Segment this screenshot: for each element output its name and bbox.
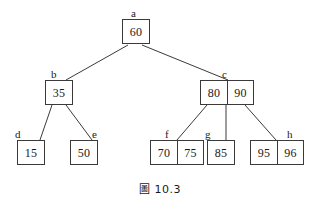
tree-node-f-key-0: 70 bbox=[151, 141, 177, 164]
tree-node-f: 7075 bbox=[150, 140, 204, 165]
tree-node-e: 50 bbox=[70, 140, 98, 165]
tree-edge-a-b bbox=[66, 45, 128, 80]
tree-node-b: 35 bbox=[45, 80, 73, 105]
tree-edge-c-h bbox=[245, 105, 276, 140]
tree-node-label-g: g bbox=[205, 129, 211, 140]
tree-node-label-b: b bbox=[51, 69, 57, 80]
tree-node-h-key-0: 95 bbox=[251, 141, 277, 164]
tree-node-e-key-0: 50 bbox=[71, 141, 97, 164]
caption-number: 10.3 bbox=[155, 183, 182, 196]
tree-node-c-key-1: 90 bbox=[227, 81, 253, 104]
tree-node-d: 15 bbox=[17, 140, 45, 165]
tree-node-g-key-0: 85 bbox=[208, 141, 234, 164]
tree-node-a-key-0: 60 bbox=[123, 20, 149, 43]
tree-node-d-key-0: 15 bbox=[18, 141, 44, 164]
tree-node-b-key-0: 35 bbox=[46, 81, 72, 104]
tree-node-label-h: h bbox=[287, 129, 293, 140]
tree-node-c: 8090 bbox=[200, 80, 254, 105]
tree-edge-b-e bbox=[66, 105, 92, 140]
tree-node-a: 60 bbox=[122, 19, 150, 44]
tree-node-g: 85 bbox=[207, 140, 235, 165]
btree-figure: 60a35b8090c15d50e7075f85g9596h 圖 10.3 bbox=[0, 0, 320, 204]
tree-node-label-a: a bbox=[131, 8, 136, 19]
tree-node-h-key-1: 96 bbox=[277, 141, 303, 164]
tree-node-f-key-1: 75 bbox=[177, 141, 203, 164]
tree-edge-a-c bbox=[142, 45, 228, 80]
figure-caption: 圖 10.3 bbox=[0, 180, 320, 196]
tree-node-label-f: f bbox=[165, 129, 169, 140]
tree-edge-c-f bbox=[177, 105, 207, 140]
tree-node-label-e: e bbox=[92, 129, 97, 140]
tree-node-h: 9596 bbox=[250, 140, 304, 165]
tree-edge-b-d bbox=[40, 105, 52, 140]
caption-symbol: 圖 bbox=[139, 183, 151, 196]
tree-node-c-key-0: 80 bbox=[201, 81, 227, 104]
tree-node-label-d: d bbox=[15, 129, 21, 140]
tree-node-label-c: c bbox=[222, 69, 227, 80]
